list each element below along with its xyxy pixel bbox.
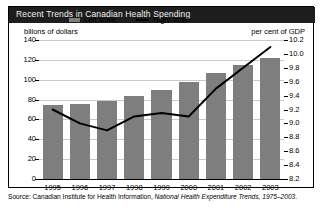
tick-dash-right-8.8	[284, 137, 288, 138]
chart-figure: Recent Trends in Canadian Health Spendin…	[0, 0, 322, 214]
tick-dash-right-10.2	[284, 40, 288, 41]
axis-tick-right-8.4: 8.4	[289, 160, 299, 169]
axis-tick-x-2002: 2002	[230, 183, 257, 192]
tick-dash-right-9.4	[284, 96, 288, 97]
legend-line-swatch-icon	[136, 19, 149, 21]
tick-dash-right-9.6	[284, 82, 288, 83]
axis-tick-right-9.0: 9.0	[289, 118, 299, 127]
tick-dash-right-9	[284, 123, 288, 124]
axis-tick-left-60: 60	[28, 114, 36, 123]
tick-dash-right-8.2	[284, 179, 288, 180]
axis-tick-x-2001: 2001	[202, 183, 229, 192]
axis-tick-left-0: 0	[32, 174, 36, 183]
axis-tick-right-9.6: 9.6	[289, 77, 299, 86]
axis-tick-left-100: 100	[23, 75, 36, 84]
axis-tick-right-10.2: 10.2	[289, 35, 304, 44]
legend-bar-swatch-icon	[69, 18, 80, 22]
axis-tick-right-10.0: 10.0	[289, 49, 304, 58]
axis-tick-left-40: 40	[28, 134, 36, 143]
chart-frame: Recent Trends in Canadian Health Spendin…	[8, 6, 314, 188]
tick-dash-right-8.4	[284, 165, 288, 166]
source-prefix: Source: Canadian Institute for Health In…	[8, 193, 155, 200]
chart-legend: Left scale Right scale	[69, 15, 190, 24]
axis-tick-x-2000: 2000	[175, 183, 202, 192]
source-note: Source: Canadian Institute for Health In…	[8, 193, 314, 200]
axis-tick-x-1999: 1999	[148, 183, 175, 192]
axis-tick-right-9.4: 9.4	[289, 91, 299, 100]
legend-item-right-scale: Right scale	[136, 15, 190, 24]
line-series-layer	[39, 40, 284, 179]
gridline-left-0	[39, 179, 284, 180]
axis-tick-x-1996: 1996	[66, 183, 93, 192]
axis-tick-right-9.2: 9.2	[289, 105, 299, 114]
legend-label-left-scale: Left scale	[84, 15, 116, 24]
axis-tick-left-120: 120	[23, 55, 36, 64]
axis-tick-x-1995: 1995	[39, 183, 66, 192]
source-title: National Health Expenditure Trends, 1975…	[155, 193, 296, 200]
plot-inner: 0204060801001201408.28.48.68.89.09.29.49…	[39, 40, 284, 179]
axis-tick-x-1997: 1997	[93, 183, 120, 192]
axis-tick-right-8.6: 8.6	[289, 146, 299, 155]
legend-item-left-scale: Left scale	[69, 15, 116, 24]
source-suffix: .	[295, 193, 297, 200]
axis-tick-left-140: 140	[23, 35, 36, 44]
axis-tick-x-2003: 2003	[257, 183, 284, 192]
tick-dash-right-10	[284, 54, 288, 55]
axis-tick-left-20: 20	[28, 154, 36, 163]
legend-label-right-scale: Right scale	[153, 15, 190, 24]
axis-tick-right-9.8: 9.8	[289, 63, 299, 72]
tick-dash-right-9.8	[284, 68, 288, 69]
axis-tick-right-8.2: 8.2	[289, 174, 299, 183]
line-right-scale	[53, 47, 271, 130]
tick-dash-right-9.2	[284, 110, 288, 111]
axis-tick-left-80: 80	[28, 95, 36, 104]
plot-area: 0204060801001201408.28.48.68.89.09.29.49…	[39, 40, 284, 179]
axis-tick-right-8.8: 8.8	[289, 132, 299, 141]
tick-dash-right-8.6	[284, 151, 288, 152]
axis-tick-x-1998: 1998	[121, 183, 148, 192]
